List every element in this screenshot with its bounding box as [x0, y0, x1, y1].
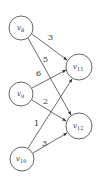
edge-weight-v10-v11: 1	[34, 119, 39, 128]
edge-weight-v8-v11: 3	[48, 33, 53, 42]
graph-diagram: 3 5 6 2 1 3 v8 v9 v10 v11	[0, 0, 99, 181]
edge-weight-v9-v12: 2	[43, 97, 48, 106]
edge-weight-v8-v12: 5	[43, 55, 48, 64]
edge-weight-v10-v12: 3	[42, 139, 47, 148]
node-v12: v12	[66, 113, 92, 139]
node-v9: v9	[9, 82, 33, 106]
edge-v10-v12	[33, 133, 67, 153]
edges: 3 5 6 2 1 3	[28, 33, 72, 153]
edge-weight-v9-v11: 6	[36, 69, 41, 78]
node-v8: v8	[9, 16, 33, 40]
edge-v8-v12	[28, 38, 71, 115]
node-v10: v10	[10, 147, 34, 171]
edge-v9-v12	[32, 100, 66, 121]
node-v11: v11	[66, 54, 92, 80]
edge-v10-v11	[28, 79, 72, 148]
